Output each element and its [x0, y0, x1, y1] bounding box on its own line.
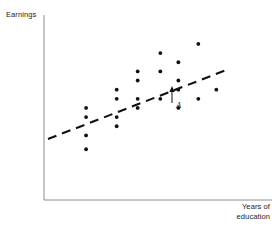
data-point — [136, 106, 140, 110]
data-point — [115, 97, 119, 101]
annotation-arrow-head — [169, 86, 174, 92]
data-point — [84, 106, 88, 110]
scatter-plot-figure: Earnings Years ofeducation A — [0, 0, 276, 232]
data-point — [176, 79, 180, 83]
point-a-label: A — [176, 100, 181, 110]
data-point — [136, 79, 140, 83]
data-point — [84, 147, 88, 151]
data-point — [84, 115, 88, 119]
axes-group — [44, 15, 272, 200]
data-point — [176, 60, 180, 64]
data-point — [176, 88, 180, 92]
y-axis-label: Earnings — [6, 10, 36, 20]
data-point — [136, 97, 140, 101]
data-point — [115, 88, 119, 92]
data-point — [214, 88, 218, 92]
data-point — [196, 97, 200, 101]
point-a-annotation — [169, 86, 174, 103]
data-point — [158, 51, 162, 55]
x-axis-label-line2: education — [237, 212, 270, 221]
plot-canvas — [0, 0, 276, 232]
data-point — [115, 115, 119, 119]
data-point — [158, 97, 162, 101]
data-point — [158, 70, 162, 74]
data-point — [84, 134, 88, 138]
data-point — [136, 70, 140, 74]
data-point — [115, 124, 119, 128]
data-point — [196, 42, 200, 46]
data-points — [84, 42, 218, 151]
x-axis-label-line1: Years of — [242, 202, 270, 211]
x-axis-label: Years ofeducation — [237, 202, 270, 221]
